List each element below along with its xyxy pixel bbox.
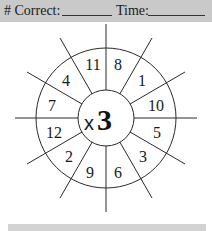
wheel-number: 10 bbox=[148, 97, 164, 114]
wheel-number: 2 bbox=[65, 148, 73, 165]
wheel-number: 5 bbox=[153, 124, 161, 141]
wheel-number: 3 bbox=[139, 148, 147, 165]
multiplier-number: 3 bbox=[97, 103, 112, 136]
wheel-number: 6 bbox=[114, 164, 122, 181]
operator-symbol: x bbox=[84, 112, 94, 134]
wheel-number: 9 bbox=[86, 164, 94, 181]
wheel-number: 11 bbox=[85, 56, 100, 73]
wheel-number: 1 bbox=[138, 72, 146, 89]
wheel-number: 4 bbox=[62, 72, 70, 89]
multiplication-wheel: x 3 8 1 10 5 3 6 9 2 12 7 4 11 bbox=[0, 0, 212, 231]
wheel-number: 7 bbox=[48, 97, 56, 114]
wheel-number: 12 bbox=[46, 124, 62, 141]
wheel-number: 8 bbox=[114, 56, 122, 73]
footer-band bbox=[8, 224, 206, 231]
